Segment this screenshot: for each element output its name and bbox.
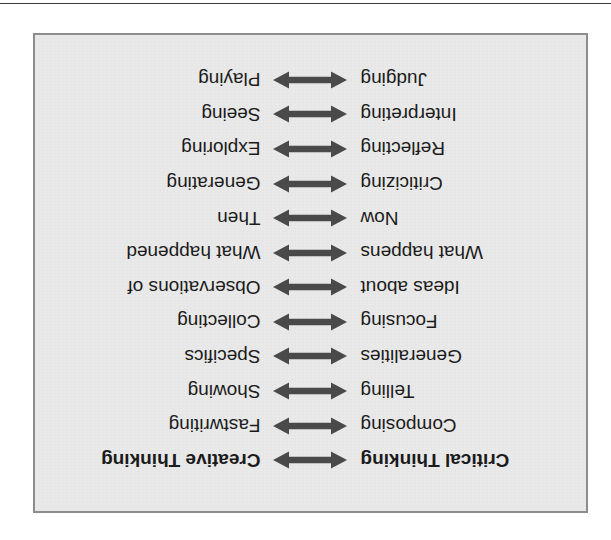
double-headed-arrow-icon	[272, 174, 350, 194]
creative-thinking-term: Showing	[54, 382, 272, 401]
term-pair-row: Critical ThinkingCreative Thinking	[35, 443, 586, 478]
term-pair-row: FocusingCollecting	[35, 305, 586, 340]
term-pair-row: InterpretingSeeing	[35, 97, 586, 132]
creative-thinking-term: Exploring	[54, 139, 272, 158]
creative-thinking-term: Fastwriting	[54, 416, 272, 435]
creative-thinking-term: Then	[54, 209, 272, 228]
double-headed-arrow-icon	[272, 208, 350, 228]
creative-thinking-term: Collecting	[54, 312, 272, 331]
term-pair-row: Ideas aboutObservations of	[35, 270, 586, 305]
creative-thinking-term: Creative Thinking	[54, 451, 272, 470]
critical-thinking-term: What happens	[350, 243, 568, 262]
critical-thinking-term: Generalities	[350, 347, 568, 366]
term-pair-row: ComposingFastwriting	[35, 408, 586, 443]
critical-thinking-term: Critical Thinking	[350, 451, 568, 470]
critical-thinking-term: Judging	[350, 70, 568, 89]
figure-rotated-content: Critical ThinkingCreative ThinkingCompos…	[35, 35, 586, 511]
double-headed-arrow-icon	[272, 450, 350, 470]
double-headed-arrow-icon	[272, 277, 350, 297]
double-headed-arrow-icon	[272, 346, 350, 366]
term-pair-row: NowThen	[35, 201, 586, 236]
double-headed-arrow-icon	[272, 381, 350, 401]
critical-thinking-term: Ideas about	[350, 278, 568, 297]
critical-thinking-term: Now	[350, 209, 568, 228]
double-headed-arrow-icon	[272, 70, 350, 90]
critical-thinking-term: Composing	[350, 416, 568, 435]
critical-thinking-term: Focusing	[350, 312, 568, 331]
double-headed-arrow-icon	[272, 139, 350, 159]
term-pair-row: ReflectingExploring	[35, 132, 586, 167]
double-headed-arrow-icon	[272, 243, 350, 263]
term-pair-row: JudgingPlaying	[35, 62, 586, 97]
creative-thinking-term: Specifics	[54, 347, 272, 366]
creative-thinking-term: Playing	[54, 70, 272, 89]
term-pair-row: CriticizingGenerating	[35, 166, 586, 201]
double-headed-arrow-icon	[272, 104, 350, 124]
critical-thinking-term: Reflecting	[350, 139, 568, 158]
creative-thinking-term: Generating	[54, 174, 272, 193]
creative-thinking-term: Seeing	[54, 105, 272, 124]
figure-frame: Critical ThinkingCreative ThinkingCompos…	[33, 33, 588, 513]
creative-thinking-term: What happened	[54, 243, 272, 262]
term-pair-row: GeneralitiesSpecifics	[35, 339, 586, 374]
critical-thinking-term: Telling	[350, 382, 568, 401]
critical-thinking-term: Criticizing	[350, 174, 568, 193]
double-headed-arrow-icon	[272, 416, 350, 436]
double-headed-arrow-icon	[272, 312, 350, 332]
critical-thinking-term: Interpreting	[350, 105, 568, 124]
term-pair-row: What happensWhat happened	[35, 235, 586, 270]
term-pair-row: TellingShowing	[35, 374, 586, 409]
page-top-rule	[0, 3, 611, 4]
creative-thinking-term: Observations of	[54, 278, 272, 297]
